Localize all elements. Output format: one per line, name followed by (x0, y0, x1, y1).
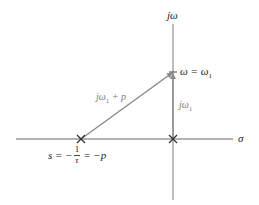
omega1-point-label-sub: 1 (208, 72, 212, 80)
pole-label-fraction: 1 τ (74, 145, 81, 166)
sigma-axis-label: σ (238, 133, 243, 144)
pole-label-suffix: = −p (83, 150, 106, 161)
omega1-point-label: ω = ω1 (180, 66, 212, 80)
pole-location-label: s = − 1 τ = −p (48, 145, 106, 166)
pole-label-frac-den: τ (75, 156, 78, 166)
omega1-point-label-text: ω = ω (180, 65, 208, 77)
slanted-vector-label-main: jω (96, 91, 106, 102)
jomega-axis-label: jω (167, 10, 178, 21)
vertical-vector-label: jω1 (179, 100, 192, 113)
slanted-vector-label-tail: + p (109, 91, 126, 102)
vector-jomega1-plus-p (81, 73, 172, 139)
vertical-vector-label-sub: 1 (189, 105, 193, 113)
s-plane-diagram (0, 0, 259, 205)
slanted-vector-label: jω1 + p (96, 92, 126, 105)
vertical-vector-label-main: jω (179, 99, 189, 110)
pole-label-prefix: s = − (48, 150, 73, 161)
